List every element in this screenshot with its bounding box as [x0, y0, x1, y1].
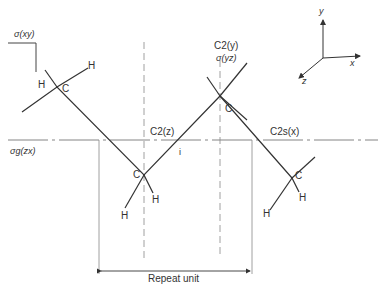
sigma-g-zx-label: σg(zx)	[10, 146, 35, 156]
hydrogen-atom-label: H	[263, 208, 270, 219]
y-axis-label: y	[318, 6, 324, 16]
hydrogen-atom-label: H	[121, 210, 128, 221]
carbon-atom-label: C	[225, 103, 232, 114]
carbon-atom-label: C	[133, 169, 140, 180]
hydrogen-atom-label: H	[38, 79, 45, 90]
carbon-atom-label: C	[295, 170, 302, 181]
sigma-xy-plane-marker	[8, 43, 36, 72]
hydrogen-atom-label: H	[299, 192, 306, 203]
c2-y-label: C2(y)	[214, 40, 238, 51]
z-axis-label: z	[301, 76, 307, 86]
carbon-atom-label: C	[62, 83, 69, 94]
sigma-xy-label: σ(xy)	[14, 29, 34, 39]
ch-bond	[207, 77, 220, 96]
ch-bond	[144, 175, 153, 193]
ch-bond	[45, 70, 57, 87]
coordinate-axes-icon	[299, 20, 360, 78]
c2s-x-label: C2s(x)	[270, 126, 299, 137]
ch-bond	[270, 178, 292, 210]
x-axis-label: x	[349, 58, 355, 68]
inversion-center-label: i	[179, 147, 181, 157]
sigma-yz-label: σ(yz)	[216, 53, 236, 63]
hydrogen-atom-label: H	[88, 60, 95, 71]
polymer-symmetry-diagram: σ(xy) σg(zx) C2(z) C2(y) σ(yz) C2s(x) i …	[0, 0, 378, 288]
ch-bond	[220, 63, 247, 96]
repeat-unit-label: Repeat unit	[148, 273, 199, 284]
hydrogen-atom-label: H	[152, 194, 159, 205]
c2-z-label: C2(z)	[150, 126, 174, 137]
